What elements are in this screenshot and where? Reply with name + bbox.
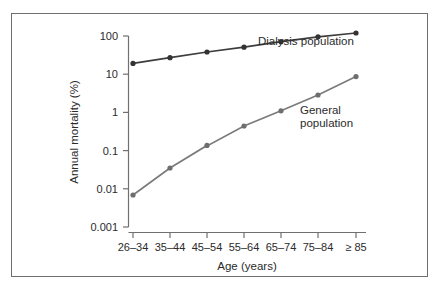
y-tick-label-0-001: 0.001	[90, 221, 118, 233]
series-label-general-population-line1: General	[300, 104, 341, 116]
data-point-general-6	[353, 74, 358, 79]
x-tick-label-5: 75–84	[303, 241, 334, 253]
series-label-dialysis-population: Dialysis population	[258, 35, 354, 47]
y-tick-label-10: 10	[106, 68, 118, 80]
data-point-general-3	[241, 123, 246, 128]
data-point-general-5	[315, 92, 320, 97]
y-tick-label-100: 100	[100, 30, 118, 42]
data-point-dialysis-6	[353, 30, 358, 35]
data-point-dialysis-0	[130, 61, 135, 66]
mortality-line-chart: 100 10 1 0.1 0.01 0.001 26–34 35–44 45–5…	[0, 0, 445, 293]
y-tick-label-0-01: 0.01	[97, 183, 118, 195]
data-point-general-2	[204, 143, 209, 148]
x-tick-label-0: 26–34	[118, 241, 149, 253]
data-point-general-1	[167, 165, 172, 170]
data-point-general-0	[130, 192, 135, 197]
series-line-general	[133, 77, 356, 195]
data-point-dialysis-2	[204, 49, 209, 54]
x-axis-ticks	[133, 233, 356, 239]
y-tick-label-0-1: 0.1	[103, 145, 118, 157]
y-tick-label-1: 1	[112, 106, 118, 118]
figure-root: 100 10 1 0.1 0.01 0.001 26–34 35–44 45–5…	[0, 0, 445, 293]
y-axis-title: Annual mortality (%)	[68, 80, 80, 184]
series-label-general-population-line2: population	[300, 117, 353, 129]
data-point-dialysis-1	[167, 55, 172, 60]
series-general-population	[130, 74, 358, 198]
data-point-dialysis-3	[241, 45, 246, 50]
x-axis-title: Age (years)	[217, 260, 277, 272]
x-tick-label-6: ≥ 85	[345, 241, 366, 253]
x-tick-label-2: 45–54	[192, 241, 223, 253]
data-point-general-4	[278, 108, 283, 113]
y-axis-ticks	[123, 36, 129, 227]
x-tick-label-1: 35–44	[155, 241, 186, 253]
x-tick-label-4: 65–74	[266, 241, 297, 253]
x-tick-label-3: 55–64	[229, 241, 260, 253]
